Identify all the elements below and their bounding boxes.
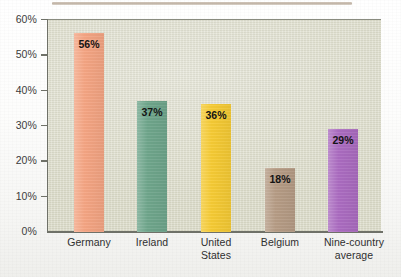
y-axis-tick-20 <box>41 160 48 161</box>
bar-united-states[interactable]: 36% <box>201 104 231 232</box>
bar-nine-country-average[interactable]: 29% <box>328 129 358 232</box>
y-axis-label-30: 30% <box>0 119 37 131</box>
y-axis-label-50: 50% <box>0 48 37 60</box>
bar-belgium[interactable]: 18% <box>265 168 295 232</box>
y-axis-label-20: 20% <box>0 154 37 166</box>
y-axis-label-60: 60% <box>0 13 37 25</box>
y-axis-tick-10 <box>41 196 48 197</box>
x-axis-label-nine-country-average: Nine-country average <box>310 236 398 261</box>
x-axis-label-united-states: United States <box>188 236 244 261</box>
bar-germany[interactable]: 56% <box>74 33 104 232</box>
y-axis-label-40: 40% <box>0 84 37 96</box>
bar-value-ireland: 37% <box>127 106 177 118</box>
x-axis-label-ireland: Ireland <box>124 236 180 249</box>
y-axis-tick-60 <box>41 19 48 20</box>
bar-value-nine-country-average: 29% <box>318 134 368 146</box>
bar-value-united-states: 36% <box>191 109 241 121</box>
x-axis-label-belgium: Belgium <box>250 236 310 249</box>
x-axis-label-germany: Germany <box>59 236 119 249</box>
bar-ireland[interactable]: 37% <box>137 101 167 232</box>
y-axis-label-0: 0% <box>0 225 37 237</box>
bar-sheen <box>201 104 231 232</box>
y-axis-label-10: 10% <box>0 190 37 202</box>
y-axis-tick-50 <box>41 54 48 55</box>
bar-sheen <box>137 101 167 232</box>
bar-value-germany: 56% <box>64 38 114 50</box>
bar-value-belgium: 18% <box>255 173 305 185</box>
bar-chart: 60% 50% 40% 30% 20% 10% 0% 56% 37% 36% 1… <box>0 0 401 277</box>
bar-sheen <box>74 33 104 232</box>
y-axis-tick-40 <box>41 90 48 91</box>
y-axis-tick-30 <box>41 125 48 126</box>
